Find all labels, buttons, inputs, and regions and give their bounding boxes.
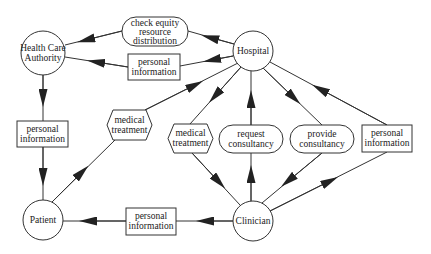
entity-patient[interactable]: Patient xyxy=(23,200,63,240)
flow-label-line2: consultancy xyxy=(228,139,274,149)
edge-hospital-check-equity-arrow xyxy=(210,38,234,45)
flow-personal-info-hospital-hca[interactable]: personal information xyxy=(128,54,180,80)
flow-label-line1: personal xyxy=(138,57,171,67)
entity-label: Patient xyxy=(30,215,57,225)
entity-health-care-authority[interactable]: Health Care Authority xyxy=(20,31,66,75)
edge-pi-hospital-arrow xyxy=(320,89,387,125)
flow-label-line3: distribution xyxy=(133,36,177,46)
edge-patient-med-arrow xyxy=(52,172,82,202)
flow-label-line2: treatment xyxy=(112,125,148,135)
edge-pi-hca-arrow xyxy=(96,62,128,67)
flow-label-line2: information xyxy=(20,134,65,144)
flow-label-line2: information xyxy=(129,221,174,231)
edge-med2-clinician-arrow xyxy=(192,153,219,182)
flow-personal-info-clinician-patient[interactable]: personal information xyxy=(126,208,176,235)
flow-label-line2: consultancy xyxy=(299,139,345,149)
edge-provide-clinician-arrow xyxy=(288,153,322,181)
flow-personal-info-hca-patient[interactable]: personal information xyxy=(17,121,68,147)
edge-hospital-provide-arrow xyxy=(262,67,294,98)
flow-label-line1: personal xyxy=(135,211,168,221)
data-flow-diagram: Health Care Authority Hospital Patient C… xyxy=(0,0,431,254)
flow-label-line1: medical xyxy=(114,115,144,125)
flow-label-line1: provide xyxy=(307,129,336,139)
edge-check-equity-hca-arrow xyxy=(86,31,122,40)
edge-hospital-med2-arrow xyxy=(215,67,241,96)
flow-label-line1: personal xyxy=(371,128,404,138)
flow-label-line2: information xyxy=(365,138,410,148)
flow-label-line2: information xyxy=(132,67,177,77)
entity-label-line1: Health Care xyxy=(20,43,66,53)
edge-hospital-pi-hca-arrow xyxy=(212,56,233,60)
flow-medical-treatment-patient[interactable]: medical treatment xyxy=(107,110,152,140)
flow-label-line1: request xyxy=(237,129,265,139)
entity-hospital[interactable]: Hospital xyxy=(233,31,273,71)
entity-label-line2: Authority xyxy=(25,53,62,63)
flow-provide-consultancy[interactable]: provide consultancy xyxy=(290,125,354,153)
flow-label-line1: personal xyxy=(26,124,59,134)
entity-clinician[interactable]: Clinician xyxy=(233,201,273,241)
flow-personal-info-clinician-hospital[interactable]: personal information xyxy=(362,125,412,152)
entity-label: Hospital xyxy=(237,46,270,56)
flow-request-consultancy[interactable]: request consultancy xyxy=(219,125,283,153)
flow-medical-treatment-clinician[interactable]: medical treatment xyxy=(168,124,213,153)
edge-clinician-pi-arrow xyxy=(270,181,330,211)
edge-med-hospital-arrow xyxy=(145,85,195,110)
flow-label-line1: medical xyxy=(175,128,205,138)
flow-label-line2: treatment xyxy=(173,138,209,148)
entity-label: Clinician xyxy=(236,216,271,226)
flow-check-equity[interactable]: check equity resource distribution xyxy=(122,17,188,46)
